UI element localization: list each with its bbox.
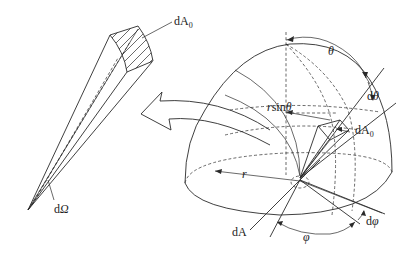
label-phi: φ: [303, 230, 310, 244]
magnify-arrow: [141, 92, 270, 145]
enlarged-cone: dA0 dΩ: [28, 14, 193, 216]
label-dtheta: dθ: [367, 89, 379, 103]
label-r: r: [242, 167, 247, 181]
label-theta: θ: [328, 44, 334, 58]
label-dA0-cone: dA0: [174, 14, 193, 30]
hatched-area: [100, 20, 168, 88]
label-dOmega: dΩ: [54, 202, 69, 216]
label-rsintheta: rsinθ: [267, 100, 292, 114]
label-dphi: dφ: [366, 214, 379, 228]
label-dA0-sphere: dA0: [355, 123, 374, 139]
label-dA: dA: [232, 225, 247, 239]
solid-angle-diagram: dA0 dΩ: [0, 0, 408, 258]
